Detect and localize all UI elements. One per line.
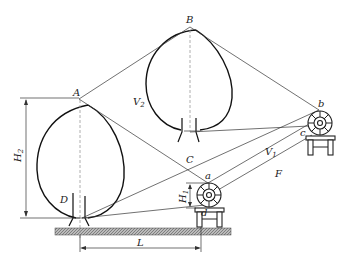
label-v2: V2 [133, 96, 145, 109]
h2-dimension [20, 98, 80, 218]
sprayer-a [195, 183, 224, 227]
ground [55, 228, 231, 235]
label-point-c: c [300, 127, 306, 138]
label-point-B: B [185, 14, 193, 25]
label-point-d: d [201, 207, 207, 218]
left-tree-crown [37, 105, 124, 218]
label-h1: H1 [177, 190, 190, 204]
label-point-D: D [59, 194, 68, 205]
left-tree-trunk [69, 193, 89, 226]
sprayer-b [306, 111, 335, 155]
label-l: L [136, 237, 144, 248]
right-tree-trunk [178, 118, 200, 142]
label-f: F [274, 168, 283, 179]
label-point-b: b [318, 98, 324, 109]
sprayer-diagram: H2 H1 L A B C D a b c d V2 V1 F [0, 0, 344, 264]
label-point-a: a [205, 170, 211, 181]
label-point-A: A [72, 87, 80, 98]
label-point-C: C [186, 154, 194, 165]
label-v1: V1 [265, 146, 277, 159]
right-tree-crown [146, 30, 232, 130]
label-h2: H2 [12, 148, 25, 163]
